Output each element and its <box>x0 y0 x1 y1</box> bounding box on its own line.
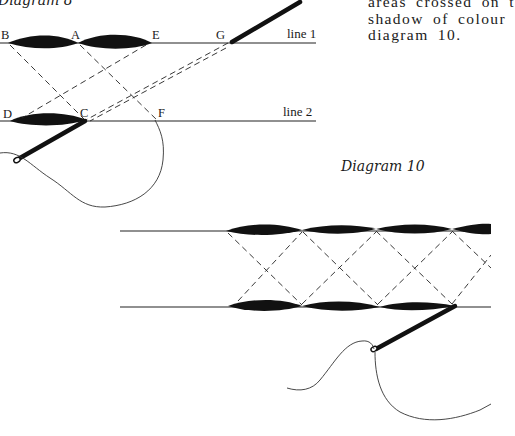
label-d: D <box>3 107 12 121</box>
stitch-d-c <box>10 113 86 125</box>
upper-stitch-4 <box>452 224 491 235</box>
upper-stitch-1 <box>226 225 302 236</box>
label-b: B <box>1 28 9 42</box>
dash-ur-2 <box>302 232 376 304</box>
label-g: G <box>216 28 225 42</box>
line-2-label: line 2 <box>283 104 312 119</box>
needle-eye-icon <box>13 156 21 164</box>
diagram-10 <box>120 224 491 420</box>
label-a: A <box>71 28 80 42</box>
upper-stitch-3 <box>376 225 452 234</box>
thread-tail <box>287 341 374 390</box>
needle-lower <box>376 306 455 349</box>
stitch-b-a <box>8 36 78 49</box>
stitch-a-e <box>78 35 152 49</box>
needle-eye-icon <box>370 345 378 352</box>
dash-dr-1 <box>228 233 302 305</box>
upper-stitch-2 <box>302 225 376 233</box>
dash-dr-2 <box>303 232 378 305</box>
needle-at-c <box>20 121 85 158</box>
lower-stitch-1 <box>228 300 302 311</box>
dash-b-c <box>10 45 84 119</box>
dash-g-c-1 <box>84 43 228 121</box>
lower-stitch-3 <box>380 302 455 310</box>
line-1-label: line 1 <box>287 26 316 41</box>
dash-a-f <box>80 45 158 121</box>
thread-loop <box>0 120 163 207</box>
lower-stitch-2 <box>302 302 380 311</box>
diagram-8: B A E G D C F line 1 line 2 <box>0 2 316 207</box>
label-c: C <box>80 106 88 120</box>
thread-loop <box>375 352 491 420</box>
label-e: E <box>152 28 160 42</box>
dash-ur-3 <box>378 232 452 304</box>
dash-ur-1 <box>238 232 302 301</box>
dash-ur-4 <box>452 255 491 304</box>
label-f: F <box>158 106 165 120</box>
